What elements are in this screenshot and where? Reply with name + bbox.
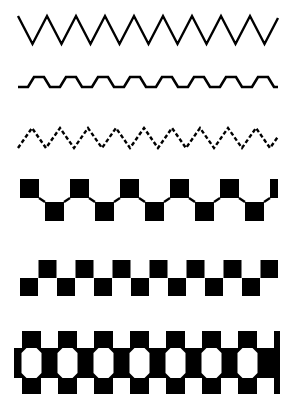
pattern-square <box>113 260 131 278</box>
octagon-hole <box>202 348 222 378</box>
pattern-square <box>261 260 279 278</box>
zigzag-stroke <box>18 128 278 148</box>
pattern-square <box>131 278 149 296</box>
pattern-square <box>20 278 38 296</box>
octagon-hole <box>58 348 78 378</box>
zigzag-flat-stroke <box>18 77 278 87</box>
pattern-sheet <box>0 0 287 400</box>
pattern-square <box>170 179 189 198</box>
pattern-square <box>220 179 239 198</box>
pattern-square <box>95 202 114 221</box>
octagon-hole <box>22 348 42 378</box>
pattern-square <box>150 260 168 278</box>
octagon-hole <box>166 348 186 378</box>
octagon-hole <box>238 348 258 378</box>
pattern-square <box>224 260 242 278</box>
pattern-square <box>39 260 57 278</box>
dashed-zigzag <box>0 118 287 158</box>
octagon-hole <box>130 348 150 378</box>
octagon-hole-border-band <box>0 320 287 394</box>
pattern-square <box>120 179 139 198</box>
pattern-square <box>76 260 94 278</box>
pattern-square <box>70 179 89 198</box>
square-zigzag-linked <box>0 178 287 230</box>
pattern-square <box>270 179 278 198</box>
pattern-square <box>205 278 223 296</box>
pattern-square <box>187 260 205 278</box>
pattern-square <box>57 278 75 296</box>
pattern-square <box>245 202 264 221</box>
pattern-square <box>242 278 260 296</box>
pattern-square <box>45 202 64 221</box>
pattern-square <box>94 278 112 296</box>
pattern-square <box>168 278 186 296</box>
octagon-hole <box>94 348 114 378</box>
zigzag-stroke <box>18 16 278 44</box>
square-link-lines <box>39 198 270 202</box>
checker-square-band <box>0 258 287 302</box>
pattern-square <box>145 202 164 221</box>
pattern-square <box>20 179 39 198</box>
pattern-square <box>195 202 214 221</box>
low-zigzag-with-flats <box>0 60 287 100</box>
tall-line-zigzag <box>0 8 287 52</box>
